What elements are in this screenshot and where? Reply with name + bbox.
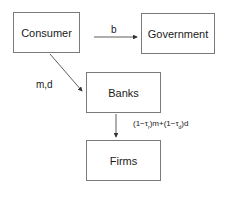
node-consumer-label: Consumer	[21, 27, 72, 39]
node-banks-label: Banks	[108, 87, 139, 99]
node-firms: Firms	[86, 140, 161, 181]
edge-label-b: b	[111, 24, 117, 35]
node-government-label: Government	[148, 28, 209, 40]
edge-label-md: m,d	[36, 79, 53, 90]
node-government: Government	[141, 13, 215, 54]
node-consumer: Consumer	[13, 12, 80, 53]
node-firms-label: Firms	[110, 155, 138, 167]
edge-label-banks-firms: (1−τr)m+(1−τd)d	[133, 119, 188, 130]
node-banks: Banks	[86, 72, 161, 113]
arrow-consumer-banks	[50, 54, 82, 91]
